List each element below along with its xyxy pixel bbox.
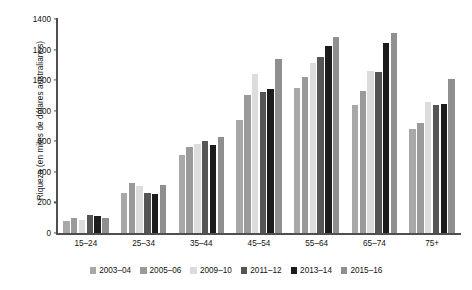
- legend-swatch-icon: [190, 267, 197, 274]
- bar-group: [288, 19, 346, 233]
- x-axis-tick-label: 45–54: [248, 239, 271, 248]
- bar-group: [403, 19, 461, 233]
- legend-label: 2013–14: [300, 266, 332, 275]
- bar: [252, 74, 258, 233]
- bar-group: [346, 19, 404, 233]
- bar: [160, 185, 166, 233]
- bar: [63, 221, 69, 233]
- bar: [87, 215, 93, 233]
- x-axis-tick-label: 55–64: [305, 239, 328, 248]
- bar: [102, 218, 108, 233]
- bar: [310, 63, 316, 233]
- bar: [202, 141, 208, 233]
- bar: [383, 43, 389, 233]
- legend-label: 2003–04: [99, 266, 131, 275]
- bar: [448, 79, 454, 233]
- bar: [186, 147, 192, 233]
- bar: [333, 37, 339, 233]
- bar: [367, 71, 373, 233]
- bar-group: [230, 19, 288, 233]
- bar: [121, 193, 127, 233]
- bar: [275, 59, 281, 233]
- bar: [152, 194, 158, 233]
- bar: [210, 145, 216, 233]
- legend-item[interactable]: 2013–14: [291, 266, 332, 275]
- bar-group: [115, 19, 173, 233]
- legend-item[interactable]: 2009–10: [190, 266, 231, 275]
- bar: [375, 72, 381, 233]
- legend-swatch-icon: [241, 267, 248, 274]
- legend-swatch-icon: [341, 267, 348, 274]
- bar: [302, 77, 308, 233]
- legend-item[interactable]: 2015–16: [341, 266, 382, 275]
- bar: [94, 216, 100, 233]
- bar: [236, 120, 242, 233]
- bar: [360, 91, 366, 233]
- wealth-by-age-bar-chart: Riqueza (en miles de dólares australiano…: [0, 0, 472, 290]
- bar: [317, 57, 323, 233]
- bar: [433, 105, 439, 233]
- plot-area: 0200400600800100012001400: [57, 19, 461, 233]
- bar: [425, 102, 431, 233]
- x-axis-tick-label: 15–24: [74, 239, 97, 248]
- bar: [179, 155, 185, 233]
- bar: [144, 193, 150, 234]
- x-axis-tick-label: 75+: [425, 239, 439, 248]
- bar: [417, 123, 423, 233]
- x-axis-line: [56, 233, 461, 235]
- bar: [441, 104, 447, 233]
- chart-legend: 2003–042005–062009–102011–122013–142015–…: [0, 266, 472, 275]
- bar: [71, 218, 77, 233]
- legend-label: 2005–06: [150, 266, 182, 275]
- legend-label: 2009–10: [200, 266, 232, 275]
- legend-swatch-icon: [90, 267, 97, 274]
- bar: [244, 95, 250, 233]
- legend-label: 2015–16: [350, 266, 382, 275]
- bar: [194, 144, 200, 233]
- bar: [79, 220, 85, 233]
- legend-item[interactable]: 2003–04: [90, 266, 131, 275]
- bar: [352, 105, 358, 233]
- bar-group: [172, 19, 230, 233]
- legend-label: 2011–12: [250, 266, 281, 275]
- bar-group: [57, 19, 115, 233]
- legend-item[interactable]: 2005–06: [140, 266, 181, 275]
- x-axis-tick-label: 25–34: [132, 239, 155, 248]
- bar: [409, 129, 415, 233]
- bar: [136, 186, 142, 233]
- bar: [218, 137, 224, 233]
- bar: [129, 183, 135, 233]
- legend-swatch-icon: [291, 267, 298, 274]
- bar: [294, 88, 300, 233]
- bar: [267, 89, 273, 233]
- legend-item[interactable]: 2011–12: [241, 266, 282, 275]
- bar: [260, 92, 266, 233]
- x-axis-tick-label: 65–74: [363, 239, 386, 248]
- bar: [391, 33, 397, 233]
- bar: [325, 46, 331, 233]
- x-axis-tick-label: 35–44: [190, 239, 213, 248]
- legend-swatch-icon: [140, 267, 147, 274]
